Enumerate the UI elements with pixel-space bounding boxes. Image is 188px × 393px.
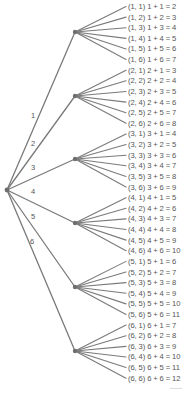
branch-label-4: 4 — [31, 187, 35, 196]
leaf-edge — [75, 159, 126, 187]
leaf-outcome: (6, 3) 6 + 3 = 9 — [128, 342, 176, 351]
branch-label-1: 1 — [31, 111, 35, 120]
leaf-edge — [75, 287, 126, 293]
branch-label-6: 6 — [30, 237, 34, 246]
branch-label-2: 2 — [31, 139, 35, 148]
leaf-outcome: (5, 4) 5 + 4 = 9 — [128, 289, 176, 298]
branch-node-4 — [73, 221, 77, 225]
leaf-outcome: (4, 1) 4 + 1 = 5 — [128, 193, 176, 202]
scroll-indicator — [170, 388, 182, 389]
branch-edge-6 — [7, 190, 75, 351]
leaf-outcome: (4, 5) 4 + 5 = 9 — [128, 236, 176, 245]
branch-label-3: 3 — [31, 163, 35, 172]
leaf-edge — [75, 32, 126, 38]
leaf-outcome: (2, 2) 2 + 2 = 4 — [128, 76, 176, 85]
branch-node-2 — [73, 94, 77, 98]
leaf-outcome: (2, 5) 2 + 5 = 7 — [128, 108, 176, 117]
leaf-outcome: (1, 4) 1 + 4 = 5 — [128, 34, 176, 43]
leaf-outcome: (6, 1) 6 + 1 = 7 — [128, 321, 176, 330]
leaf-outcome: (2, 4) 2 + 4 = 6 — [128, 98, 176, 107]
leaf-outcome: (6, 2) 6 + 2 = 8 — [128, 331, 176, 340]
leaf-edge — [75, 159, 126, 176]
tree-nodes — [5, 30, 78, 353]
branch-node-5 — [73, 285, 77, 289]
tree-edges — [7, 7, 126, 379]
leaf-edge — [75, 223, 126, 251]
branch-node-3 — [73, 157, 77, 161]
branch-node-6 — [73, 349, 77, 353]
leaf-outcome: (4, 4) 4 + 4 = 8 — [128, 225, 176, 234]
leaf-outcome: (2, 6) 2 + 6 = 8 — [128, 119, 176, 128]
leaf-outcome: (5, 6) 5 + 6 = 11 — [128, 310, 180, 319]
leaf-outcome: (4, 2) 4 + 2 = 6 — [128, 204, 176, 213]
root-node — [5, 188, 10, 193]
leaf-edge — [75, 32, 126, 60]
leaf-outcome: (6, 5) 6 + 5 = 11 — [128, 363, 180, 372]
leaf-edge — [75, 159, 126, 166]
leaf-outcome: (5, 2) 5 + 2 = 7 — [128, 268, 176, 277]
leaf-outcome: (2, 1) 2 + 1 = 3 — [128, 66, 176, 75]
branch-label-5: 5 — [31, 212, 35, 221]
leaf-outcome: (1, 5) 1 + 5 = 6 — [128, 44, 176, 53]
leaf-edge — [75, 32, 126, 49]
leaf-outcome: (2, 3) 2 + 3 = 5 — [128, 87, 176, 96]
branch-edge-3 — [7, 159, 75, 190]
leaf-outcome: (3, 6) 3 + 6 = 9 — [128, 183, 176, 192]
leaf-outcome: (1, 1) 1 + 1 = 2 — [128, 2, 176, 11]
leaf-edge — [75, 287, 126, 314]
leaf-edge — [75, 223, 126, 240]
leaf-outcome: (6, 4) 6 + 4 = 10 — [128, 352, 180, 361]
leaf-outcome: (3, 3) 3 + 3 = 6 — [128, 151, 176, 160]
leaf-outcome: (3, 4) 3 + 4 = 7 — [128, 161, 176, 170]
leaf-outcome: (4, 6) 4 + 6 = 10 — [128, 246, 180, 255]
leaf-outcome: (5, 5) 5 + 5 = 10 — [128, 299, 180, 308]
leaf-outcome: (3, 5) 3 + 5 = 8 — [128, 172, 176, 181]
leaf-outcome: (4, 3) 4 + 3 = 7 — [128, 214, 176, 223]
branch-edge-4 — [7, 190, 75, 223]
branch-edge-5 — [7, 190, 75, 287]
branch-node-1 — [73, 30, 77, 34]
leaf-outcome: (1, 6) 1 + 6 = 7 — [128, 55, 176, 64]
leaf-outcome: (3, 1) 3 + 1 = 4 — [128, 129, 176, 138]
leaf-outcome: (3, 2) 3 + 2 = 5 — [128, 140, 176, 149]
leaf-outcome: (5, 3) 5 + 3 = 8 — [128, 278, 176, 287]
leaf-outcome: (5, 1) 5 + 1 = 6 — [128, 257, 176, 266]
leaf-edge — [75, 223, 126, 230]
leaf-outcome: (1, 3) 1 + 3 = 4 — [128, 23, 176, 32]
leaf-outcome: (1, 2) 1 + 2 = 3 — [128, 13, 176, 22]
leaf-outcome: (6, 6) 6 + 6 = 12 — [128, 374, 180, 383]
